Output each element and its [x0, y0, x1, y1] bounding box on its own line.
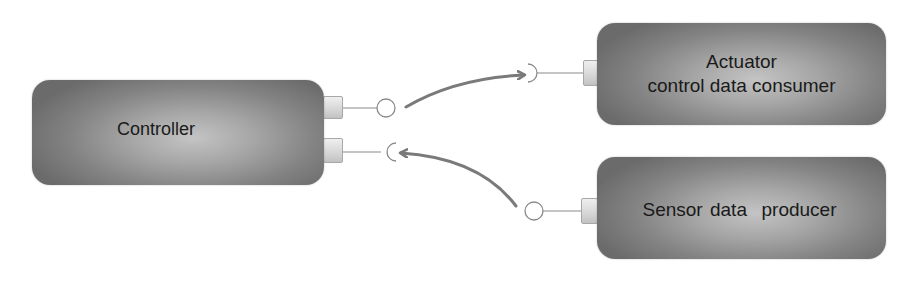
sensor-component: Sensor data producer — [597, 157, 886, 259]
arrow-controller-to-actuator — [406, 75, 524, 107]
actuator-component: Actuator control data consumer — [597, 23, 886, 125]
controller-required-interface — [343, 143, 396, 161]
controller-label-line: Controller — [117, 118, 195, 141]
actuator-label: Actuator control data consumer — [648, 50, 836, 98]
arrow-sensor-to-controller — [401, 153, 516, 206]
actuator-label-line-1: Actuator — [648, 50, 836, 74]
sensor-label: Sensor data producer — [642, 151, 836, 270]
sensor-provided-interface — [525, 202, 581, 220]
sensor-output-port — [581, 198, 598, 224]
socket-icon — [528, 64, 537, 82]
lollipop-icon — [525, 202, 543, 220]
lollipop-icon — [377, 99, 395, 117]
sensor-label-line: Sensor data producer — [642, 198, 836, 222]
controller-label: Controller — [117, 118, 195, 141]
socket-icon — [387, 143, 396, 161]
actuator-label-line-2: control data consumer — [648, 74, 836, 98]
controller-provided-interface — [343, 99, 395, 117]
controller-component: Controller — [32, 80, 324, 185]
controller-input-port — [323, 138, 343, 163]
controller-output-port — [323, 96, 343, 119]
actuator-required-interface — [528, 64, 583, 82]
